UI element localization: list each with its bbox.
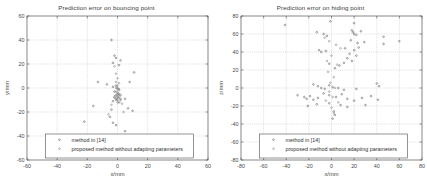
chart-panel-bouncing-point: Prediction error on bouncing point -60-4… <box>0 0 213 188</box>
data-point <box>339 65 341 67</box>
data-point <box>115 73 117 75</box>
data-point <box>284 24 286 26</box>
data-point <box>317 97 319 99</box>
x-axis-label: x/mm <box>324 171 338 177</box>
data-point <box>340 104 342 106</box>
data-point <box>328 91 330 93</box>
data-point <box>112 100 114 102</box>
x-tick-label: 60 <box>205 163 211 169</box>
data-point <box>334 67 336 69</box>
data-point <box>317 85 319 87</box>
data-point <box>383 36 385 38</box>
data-point <box>313 99 315 101</box>
x-tick-label: 0 <box>330 163 333 169</box>
data-point <box>358 47 360 49</box>
data-point <box>121 103 123 105</box>
x-tick-label: 20 <box>145 163 151 169</box>
data-point <box>318 49 320 51</box>
y-axis-label: y/mm <box>4 81 10 95</box>
data-point <box>333 76 335 78</box>
data-point <box>330 82 332 84</box>
data-point <box>349 53 351 55</box>
data-point <box>304 96 306 98</box>
data-point <box>83 121 85 123</box>
data-point <box>328 94 330 96</box>
data-point <box>129 81 131 83</box>
y-tick-label: 0 <box>22 85 25 91</box>
legend-label: proposed method without adapting paramet… <box>72 146 184 152</box>
data-point <box>334 114 336 116</box>
data-point <box>326 35 328 37</box>
scatter-plot-bouncing-point: -60-40-2002040606040200-20-40-60x/mmy/mm… <box>0 0 213 188</box>
x-tick-label: -20 <box>83 163 91 169</box>
y-tick-label: 60 <box>233 31 239 37</box>
data-point <box>352 31 354 33</box>
data-point <box>377 99 379 101</box>
x-tick-label: -60 <box>260 163 268 169</box>
data-point <box>109 116 111 118</box>
data-point <box>333 112 335 114</box>
data-point <box>346 98 348 100</box>
data-point <box>353 49 355 51</box>
data-point <box>332 118 334 120</box>
data-point <box>343 89 345 91</box>
x-axis-label: x/mm <box>110 171 124 177</box>
x-tick-label: 40 <box>175 163 181 169</box>
data-point <box>328 102 330 104</box>
data-point <box>93 105 95 107</box>
data-point <box>330 21 332 23</box>
data-point <box>127 108 129 110</box>
data-point <box>320 51 322 53</box>
data-point <box>360 30 362 32</box>
data-point <box>356 34 358 36</box>
data-point <box>337 102 339 104</box>
data-point <box>97 81 99 83</box>
y-tick-label: -60 <box>17 157 25 163</box>
data-point <box>124 130 126 132</box>
data-point <box>297 94 299 96</box>
data-point <box>350 39 352 41</box>
data-point <box>325 50 327 52</box>
data-point <box>346 57 348 59</box>
data-point <box>365 104 367 106</box>
data-point <box>324 88 326 90</box>
data-point <box>340 48 342 50</box>
data-point <box>108 114 110 116</box>
data-point <box>383 43 385 45</box>
data-point <box>111 104 113 106</box>
data-point <box>370 95 372 97</box>
x-tick-label: 0 <box>116 163 119 169</box>
data-point <box>133 72 135 74</box>
data-point <box>327 71 329 73</box>
scatter-plot-hiding-point: -80-60-40-20020406080806040200-20-40-60-… <box>214 0 427 188</box>
x-tick-label: 80 <box>419 163 425 169</box>
data-point <box>363 41 365 43</box>
legend-label: method in [14] <box>72 137 107 143</box>
data-point <box>351 60 353 62</box>
legend-label: method in [14] <box>286 137 321 143</box>
data-point <box>309 95 311 97</box>
data-point <box>115 57 117 59</box>
x-tick-label: -20 <box>305 163 313 169</box>
data-point <box>323 33 325 35</box>
data-point <box>112 62 114 64</box>
data-point <box>336 64 338 66</box>
figure-page: Prediction error on bouncing point -60-4… <box>0 0 427 188</box>
x-tick-label: 60 <box>396 163 402 169</box>
x-tick-label: -40 <box>282 163 290 169</box>
legend-label: proposed method without adapting paramet… <box>286 146 398 152</box>
data-point <box>115 81 117 83</box>
data-point <box>320 87 322 89</box>
data-point <box>335 44 337 46</box>
data-point <box>343 62 345 64</box>
data-point <box>118 82 120 84</box>
x-tick-label: 40 <box>374 163 380 169</box>
data-point <box>114 55 116 57</box>
data-point <box>328 84 330 86</box>
data-point <box>344 48 346 50</box>
data-point <box>328 40 330 42</box>
data-point <box>118 64 120 66</box>
x-tick-label: -60 <box>23 163 31 169</box>
x-tick-label: -80 <box>237 163 245 169</box>
data-point <box>316 31 318 33</box>
